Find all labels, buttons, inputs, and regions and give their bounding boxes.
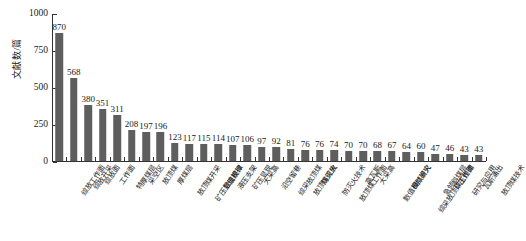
bar[interactable] bbox=[475, 155, 483, 161]
bar-group[interactable]: 351 bbox=[95, 14, 109, 161]
bar-group[interactable]: 208 bbox=[124, 14, 138, 161]
bar[interactable] bbox=[244, 145, 252, 161]
bar-group[interactable]: 68 bbox=[370, 14, 384, 161]
y-tick-label: 1000 bbox=[29, 8, 48, 19]
bar-group[interactable]: 117 bbox=[182, 14, 196, 161]
bar-group[interactable]: 870 bbox=[52, 14, 66, 161]
y-axis-title: 文献数/篇 bbox=[10, 11, 23, 107]
plot-area: 02505007501000 8705683803513112081971961… bbox=[52, 14, 486, 162]
bar[interactable] bbox=[359, 151, 367, 161]
bar[interactable] bbox=[55, 33, 63, 161]
bar[interactable] bbox=[171, 143, 179, 161]
bar-value-label: 70 bbox=[344, 140, 353, 150]
bar-value-label: 74 bbox=[330, 139, 339, 149]
bar-group[interactable]: 43 bbox=[457, 14, 471, 161]
bar[interactable] bbox=[446, 154, 454, 161]
bar[interactable] bbox=[229, 145, 237, 161]
bar[interactable] bbox=[345, 151, 353, 161]
bar-group[interactable]: 97 bbox=[255, 14, 269, 161]
bar[interactable] bbox=[388, 151, 396, 161]
bar-value-label: 47 bbox=[431, 143, 440, 153]
category-labels: 综放工作面综放开采综放面工作面特厚煤层采空区放顶煤厚煤层放顶煤开采矿压显现规律数… bbox=[52, 164, 486, 241]
bar[interactable] bbox=[374, 151, 382, 161]
bar[interactable] bbox=[461, 155, 469, 161]
bar[interactable] bbox=[200, 144, 208, 161]
bar-group[interactable]: 107 bbox=[226, 14, 240, 161]
bar[interactable] bbox=[432, 154, 440, 161]
bar-group[interactable]: 46 bbox=[443, 14, 457, 161]
bar-value-label: 568 bbox=[67, 67, 81, 77]
bar[interactable] bbox=[128, 130, 136, 161]
y-tick-mark bbox=[53, 162, 57, 163]
bar-value-label: 380 bbox=[81, 94, 95, 104]
bar[interactable] bbox=[99, 109, 107, 161]
bar-group[interactable]: 568 bbox=[66, 14, 80, 161]
bar[interactable] bbox=[417, 152, 425, 161]
bar-value-label: 43 bbox=[460, 144, 469, 154]
bar-group[interactable]: 114 bbox=[211, 14, 225, 161]
bar-group[interactable]: 70 bbox=[356, 14, 370, 161]
bar-group[interactable]: 81 bbox=[283, 14, 297, 161]
bar[interactable] bbox=[287, 149, 295, 161]
bar-group[interactable]: 47 bbox=[428, 14, 442, 161]
bar-value-label: 107 bbox=[226, 134, 240, 144]
x-axis-line bbox=[52, 161, 486, 162]
bar[interactable] bbox=[157, 132, 165, 161]
bar-group[interactable]: 60 bbox=[414, 14, 428, 161]
y-tick-label: 750 bbox=[34, 45, 48, 56]
bar[interactable] bbox=[330, 150, 338, 161]
bar-value-label: 97 bbox=[257, 136, 266, 146]
bar-group[interactable]: 106 bbox=[240, 14, 254, 161]
bar[interactable] bbox=[215, 144, 223, 161]
x-axis-category-label: 自然发火 bbox=[410, 164, 433, 192]
bar-group[interactable]: 380 bbox=[81, 14, 95, 161]
bar[interactable] bbox=[142, 132, 150, 161]
bar-group[interactable]: 311 bbox=[110, 14, 124, 161]
bar-group[interactable]: 64 bbox=[399, 14, 413, 161]
bar-group[interactable]: 67 bbox=[385, 14, 399, 161]
bar-group[interactable]: 196 bbox=[153, 14, 167, 161]
bar-value-label: 196 bbox=[154, 121, 168, 131]
bar[interactable] bbox=[258, 147, 266, 161]
bar-group[interactable]: 43 bbox=[472, 14, 486, 161]
bar-value-label: 68 bbox=[373, 140, 382, 150]
bar-value-label: 106 bbox=[241, 134, 255, 144]
bar[interactable] bbox=[301, 150, 309, 161]
bar-group[interactable]: 197 bbox=[139, 14, 153, 161]
bar-group[interactable]: 115 bbox=[197, 14, 211, 161]
bar-value-label: 67 bbox=[387, 140, 396, 150]
bar-value-label: 64 bbox=[402, 141, 411, 151]
bar-value-label: 76 bbox=[315, 139, 324, 149]
bar-value-label: 123 bbox=[168, 132, 182, 142]
bar-group[interactable]: 74 bbox=[327, 14, 341, 161]
bar-value-label: 70 bbox=[359, 140, 368, 150]
bar-value-label: 60 bbox=[416, 141, 425, 151]
bar-group[interactable]: 123 bbox=[168, 14, 182, 161]
bar[interactable] bbox=[84, 105, 92, 161]
bar[interactable] bbox=[70, 78, 78, 161]
bar-value-label: 870 bbox=[52, 22, 66, 32]
bar-value-label: 46 bbox=[445, 143, 454, 153]
bar[interactable] bbox=[272, 147, 280, 161]
y-tick-label: 250 bbox=[34, 119, 48, 130]
bar-group[interactable]: 76 bbox=[312, 14, 326, 161]
bar-value-label: 114 bbox=[212, 133, 225, 143]
y-tick-0: 0 bbox=[52, 162, 58, 163]
bar[interactable] bbox=[403, 152, 411, 161]
bars-layer: 8705683803513112081971961231171151141071… bbox=[52, 14, 486, 161]
bar-value-label: 208 bbox=[125, 119, 139, 129]
y-tick-label: 0 bbox=[43, 156, 48, 167]
bar-group[interactable]: 70 bbox=[341, 14, 355, 161]
bar-group[interactable]: 92 bbox=[269, 14, 283, 161]
bar-value-label: 115 bbox=[197, 133, 210, 143]
x-tick-mark bbox=[486, 157, 487, 161]
bar-value-label: 197 bbox=[139, 121, 153, 131]
bar[interactable] bbox=[316, 150, 324, 161]
bar-value-label: 43 bbox=[474, 144, 483, 154]
y-tick-label: 500 bbox=[34, 82, 48, 93]
bar-group[interactable]: 76 bbox=[298, 14, 312, 161]
bar-value-label: 117 bbox=[183, 133, 196, 143]
bar[interactable] bbox=[113, 115, 121, 161]
bar[interactable] bbox=[186, 144, 194, 161]
